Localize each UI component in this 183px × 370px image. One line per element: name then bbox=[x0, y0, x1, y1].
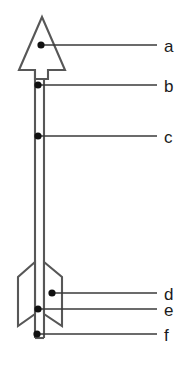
marker-dot-e[interactable] bbox=[34, 305, 41, 312]
leader-lines-group bbox=[33, 41, 157, 337]
marker-dot-a[interactable] bbox=[37, 41, 44, 48]
label-f: f bbox=[164, 327, 169, 344]
label-a: a bbox=[164, 38, 173, 55]
arrow-shaft bbox=[35, 70, 44, 338]
label-b: b bbox=[164, 78, 173, 95]
marker-dot-d[interactable] bbox=[48, 289, 55, 296]
arrow-diagram-canvas: abcdef bbox=[0, 0, 183, 370]
label-c: c bbox=[164, 129, 173, 146]
marker-dot-f[interactable] bbox=[33, 330, 40, 337]
marker-dot-b[interactable] bbox=[34, 81, 41, 88]
label-e: e bbox=[164, 302, 173, 319]
fletching-vane-left bbox=[18, 262, 35, 326]
arrow-figure bbox=[0, 0, 183, 370]
marker-dot-c[interactable] bbox=[34, 132, 41, 139]
